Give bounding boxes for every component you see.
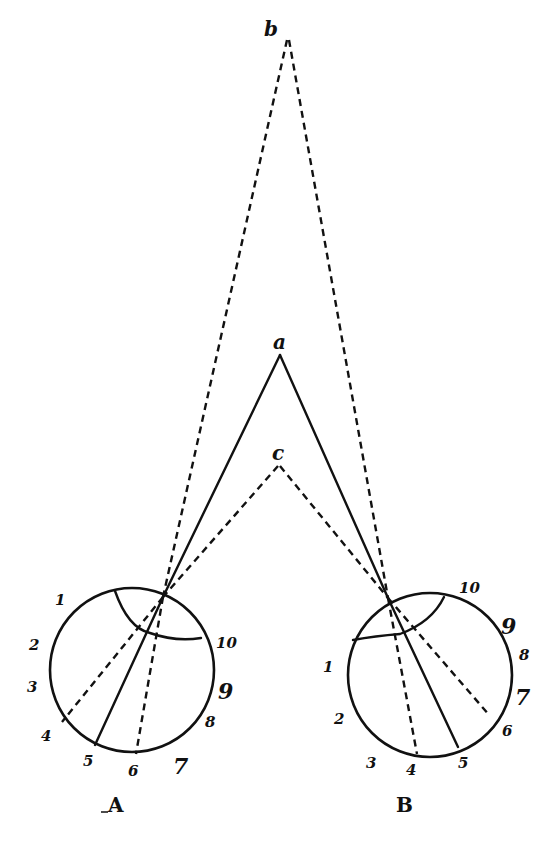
point-label-a: a (273, 330, 286, 354)
ray-a-to-a (163, 355, 280, 597)
ray-a-to-b (163, 40, 287, 597)
eye-a-num-5: 5 (83, 752, 93, 770)
ray-b-to-a (280, 355, 388, 598)
eye-b-num-8: 8 (519, 646, 530, 664)
eyeball-a-outline (50, 588, 214, 752)
cropped-caption (0, 842, 559, 850)
eye-a-num-10: 10 (216, 634, 237, 652)
eye-a-num-9: 9 (218, 678, 233, 704)
eye-a (50, 588, 214, 752)
eye-b-num-7: 7 (515, 684, 531, 710)
lens-arc-a (115, 591, 201, 639)
ray-b-inner-6 (388, 598, 490, 716)
ray-b-to-c (280, 466, 388, 598)
eye-b-num-4: 4 (406, 761, 416, 779)
eye-b-num-1: 1 (323, 658, 333, 676)
eye-b-rays (280, 40, 490, 754)
eye-label-b: B (396, 793, 413, 817)
eye-b-num-9: 9 (501, 613, 516, 639)
eye-a-num-1: 1 (55, 591, 65, 609)
eye-b-num-2: 2 (333, 710, 344, 728)
point-label-b: b (264, 17, 278, 41)
ray-a-inner-4 (62, 597, 163, 722)
ray-b-to-b (289, 40, 388, 598)
eye-label-a: A (107, 793, 124, 817)
eye-a-num-4: 4 (41, 727, 51, 745)
eye-a-num-3: 3 (27, 678, 37, 696)
eye-a-num-7: 7 (173, 753, 189, 779)
eye-b-num-6: 6 (502, 722, 513, 740)
eye-a-num-6: 6 (128, 762, 139, 780)
eye-a-num-2: 2 (28, 636, 39, 654)
eye-b-num-10: 10 (459, 579, 480, 597)
ray-b-inner-5 (388, 598, 458, 747)
ray-a-inner-6 (136, 597, 163, 754)
binocular-vision-diagram: b a c 1 2 3 4 5 6 7 8 9 10 1 2 3 4 5 6 7… (0, 0, 559, 850)
point-label-c: c (272, 441, 284, 465)
eye-b (348, 593, 512, 757)
eye-b-num-3: 3 (366, 754, 376, 772)
ray-a-to-c (163, 466, 278, 597)
eye-a-num-8: 8 (205, 713, 216, 731)
eye-b-num-5: 5 (458, 754, 468, 772)
ray-b-inner-4 (388, 598, 417, 754)
eye-a-rays (62, 40, 287, 754)
